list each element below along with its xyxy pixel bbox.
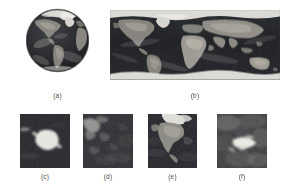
world-map-image: [110, 10, 280, 80]
caption-a: (a): [26, 92, 89, 99]
caption-f: (f): [217, 173, 267, 180]
panel-inset-north-america: [148, 114, 197, 168]
bright-landmass-inset-image: [217, 114, 267, 168]
figure-container: (a): [0, 0, 289, 195]
caption-e: (e): [148, 173, 197, 180]
panel-inset-ocean-clouds: [83, 114, 133, 168]
caption-b: (b): [110, 92, 280, 99]
north-america-inset-image: [148, 114, 197, 168]
panel-inset-antarctica: [20, 114, 70, 168]
panel-globe: [26, 8, 89, 73]
ocean-clouds-inset-image: [83, 114, 133, 168]
panel-inset-bright-landmass: [217, 114, 267, 168]
antarctica-inset-image: [20, 114, 70, 168]
caption-d: (d): [83, 173, 133, 180]
globe-image: [26, 8, 89, 73]
panel-world-map: [110, 10, 280, 80]
caption-c: (c): [20, 173, 70, 180]
